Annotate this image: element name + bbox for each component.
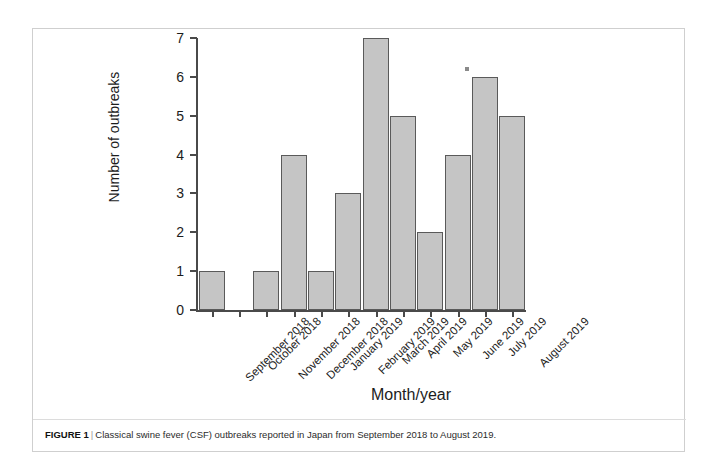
chart-plot-area: 01234567 Number of outbreaks September 2… xyxy=(33,29,686,419)
bar-february-2019 xyxy=(335,193,361,310)
y-tick-label-1: 1 xyxy=(160,264,184,278)
y-tick-6 xyxy=(190,76,197,78)
bar-january-2019 xyxy=(308,271,334,310)
bar-march-2019 xyxy=(363,38,389,310)
bar-december-2018 xyxy=(281,155,307,310)
bar-august-2019 xyxy=(499,116,525,310)
y-tick-label-0: 0 xyxy=(160,303,184,317)
y-tick-0 xyxy=(190,309,197,311)
y-tick-4 xyxy=(190,154,197,156)
bar-july-2019 xyxy=(472,77,498,310)
bar-april-2019 xyxy=(390,116,416,310)
x-axis-tick-labels: September 2018October 2018November 2018D… xyxy=(198,315,538,425)
y-tick-label-4: 4 xyxy=(160,148,184,162)
y-tick-7 xyxy=(190,37,197,39)
y-tick-5 xyxy=(190,115,197,117)
y-tick-3 xyxy=(190,192,197,194)
y-tick-1 xyxy=(190,270,197,272)
caption-divider xyxy=(33,419,686,420)
bar-september-2018 xyxy=(199,271,225,310)
x-axis-line xyxy=(196,310,526,312)
figure-caption-text: Classical swine fever (CSF) outbreaks re… xyxy=(95,429,496,440)
figure-caption: FIGURE 1|Classical swine fever (CSF) out… xyxy=(45,429,665,441)
y-tick-2 xyxy=(190,231,197,233)
bars-layer xyxy=(198,38,526,310)
y-tick-label-6: 6 xyxy=(160,70,184,84)
y-tick-label-2: 2 xyxy=(160,225,184,239)
y-tick-label-5: 5 xyxy=(160,109,184,123)
figure-caption-label: FIGURE 1 xyxy=(45,429,89,440)
x-axis-title: Month/year xyxy=(246,386,576,404)
scan-artifact-speck xyxy=(465,67,469,71)
bar-may-2019 xyxy=(417,232,443,310)
y-tick-label-3: 3 xyxy=(160,186,184,200)
y-axis-title: Number of outbreaks xyxy=(106,47,122,227)
figure-panel: 01234567 Number of outbreaks September 2… xyxy=(32,28,685,452)
bar-june-2019 xyxy=(445,155,471,310)
y-tick-label-7: 7 xyxy=(160,31,184,45)
bar-november-2018 xyxy=(253,271,279,310)
